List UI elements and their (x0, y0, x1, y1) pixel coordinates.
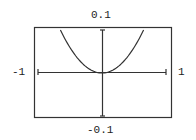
y-max-label: 0.1 (91, 9, 111, 21)
plot-area (0, 0, 196, 140)
x-max-label: 1 (178, 66, 185, 78)
x-min-label: -1 (12, 66, 25, 78)
y-min-label: -0.1 (87, 124, 113, 136)
